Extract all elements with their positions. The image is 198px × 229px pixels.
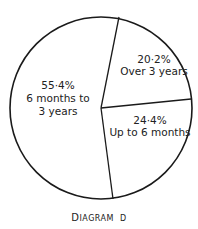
slice-category-line2: 3 years [20, 105, 96, 118]
caption-rest: IAGRAM [79, 214, 114, 223]
slice-label-up-to-6-months: 24·4% Up to 6 months [104, 114, 196, 138]
slice-percent: 55·4% [20, 79, 96, 92]
slice-percent: 24·4% [104, 114, 196, 126]
diagram-caption: DIAGRAM D [0, 212, 198, 223]
slice-category-line1: 6 months to [20, 92, 96, 105]
caption-letter: D [120, 214, 127, 223]
slice-label-6-months-to-3-years: 55·4% 6 months to 3 years [20, 79, 96, 118]
slice-percent: 20·2% [112, 53, 196, 65]
slice-label-over-3-years: 20·2% Over 3 years [112, 53, 196, 77]
slice-category: Up to 6 months [104, 126, 196, 138]
slice-category: Over 3 years [112, 65, 196, 77]
